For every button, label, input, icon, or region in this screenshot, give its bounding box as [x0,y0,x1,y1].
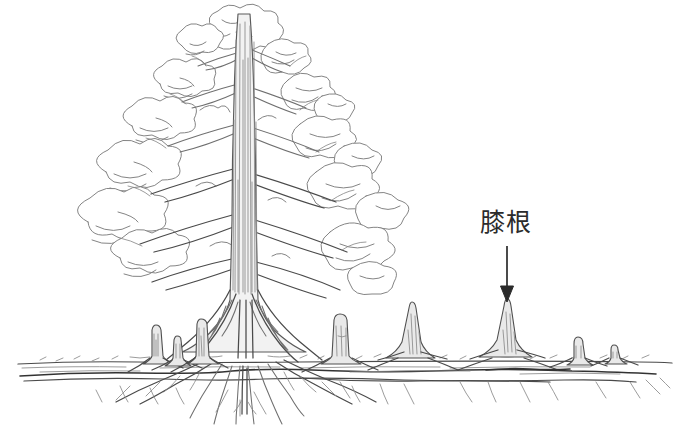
cypress-tree-drawing: .ink { fill:none; stroke:#6f6f6f; stroke… [0,0,680,434]
knee-root-8 [591,345,638,366]
annotation-arrow [501,246,514,302]
knee-root-6 [458,299,570,370]
right-rootlets [96,378,670,404]
illustration-canvas: .ink { fill:none; stroke:#6f6f6f; stroke… [0,0,680,434]
knee-root-5 [368,302,458,370]
knee-root-4 [302,314,378,372]
lateral-root [20,369,656,382]
knee-root-label: 膝根 [480,210,532,235]
